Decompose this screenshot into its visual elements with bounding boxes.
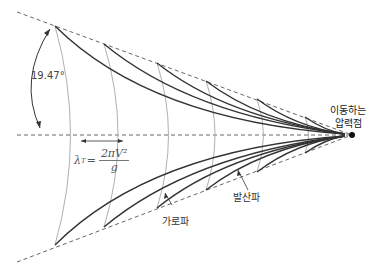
transverse-wave-label: 가로파 (162, 216, 189, 228)
arrowhead-icon (81, 139, 86, 143)
upper-boundary-line (17, 12, 352, 135)
formula-numerator: 2πV² (99, 147, 130, 161)
formula-lhs: λ (74, 154, 81, 167)
arrowhead-icon (164, 193, 168, 199)
arrowhead-icon (237, 170, 241, 176)
divergent-wave-label: 발산파 (233, 192, 260, 204)
formula-eq: = (87, 154, 96, 167)
arrowhead-icon (44, 29, 50, 36)
formula-denominator: g (111, 161, 118, 174)
formula-lhs-sub: T (81, 157, 86, 165)
wavelength-formula: λT = 2πV² g (74, 147, 129, 174)
lower-boundary-line (17, 135, 352, 262)
kelvin-wake-diagram (0, 0, 381, 271)
arrowhead-icon (36, 121, 41, 128)
formula-fraction: 2πV² g (99, 147, 130, 174)
pressure-point-label-line1: 이동하는 (330, 104, 366, 117)
pressure-point-dot (349, 132, 355, 138)
angle-label: 19.47° (31, 70, 65, 82)
pressure-point-label: 이동하는 압력점 (330, 104, 366, 130)
pressure-point-label-line2: 압력점 (330, 117, 366, 130)
arrowhead-icon (118, 139, 123, 143)
